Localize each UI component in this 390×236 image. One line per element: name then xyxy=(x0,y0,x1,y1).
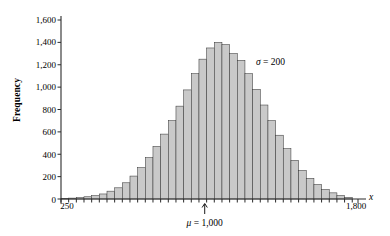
histogram-bar xyxy=(245,74,253,199)
histogram-bar xyxy=(306,178,314,199)
histogram-bar xyxy=(176,106,184,199)
histogram-bar xyxy=(214,42,222,199)
histogram-bar xyxy=(199,59,207,199)
x-tick-250: 250 xyxy=(60,202,74,211)
mu-annotation: μ = 1,000 xyxy=(187,218,223,228)
histogram-bar xyxy=(145,158,153,199)
histogram-bar xyxy=(237,60,245,199)
histogram-bar xyxy=(122,183,130,199)
histogram-bar xyxy=(222,45,230,199)
histogram-bar xyxy=(153,146,161,199)
mu-arrow-icon xyxy=(202,204,207,215)
histogram-bar xyxy=(253,89,261,199)
histogram-bars xyxy=(61,42,352,199)
histogram-figure: Frequency 1,600 1,400 1,200 1,000 800 60… xyxy=(0,0,390,236)
histogram-bar xyxy=(268,121,276,199)
histogram-bar xyxy=(283,149,291,199)
histogram-bar xyxy=(184,90,192,199)
histogram-bar xyxy=(99,194,107,199)
histogram-bar xyxy=(207,48,215,199)
x-tick-1800: 1,800 xyxy=(346,202,366,211)
histogram-bar xyxy=(329,193,337,199)
plot-area xyxy=(0,0,390,236)
histogram-bar xyxy=(276,135,284,199)
histogram-bar xyxy=(115,188,123,199)
histogram-bar xyxy=(260,105,268,199)
histogram-bar xyxy=(168,121,176,199)
histogram-bar xyxy=(230,54,238,199)
histogram-bar xyxy=(161,134,169,199)
histogram-bar xyxy=(138,168,146,199)
histogram-bar xyxy=(299,170,307,199)
histogram-bar xyxy=(314,184,322,199)
histogram-bar xyxy=(107,191,115,199)
histogram-bar xyxy=(191,74,199,199)
histogram-bar xyxy=(291,160,299,199)
sigma-value: = 200 xyxy=(261,57,285,67)
mu-value: = 1,000 xyxy=(191,218,222,228)
histogram-bar xyxy=(322,189,330,199)
histogram-bar xyxy=(130,176,138,199)
sigma-annotation: σ = 200 xyxy=(256,57,285,67)
x-axis-title: x xyxy=(369,193,373,202)
